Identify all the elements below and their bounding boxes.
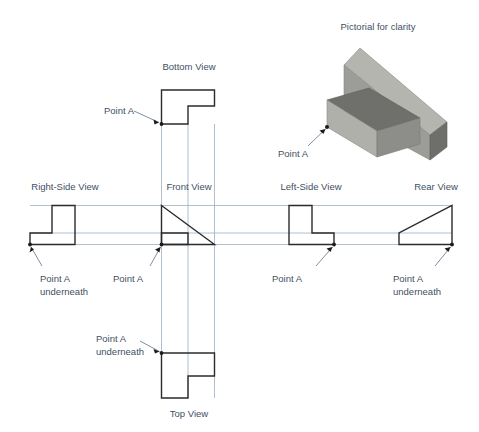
callout-pictorial-point-a: Point A: [278, 148, 309, 159]
view-front-point-a-marker: [160, 243, 164, 247]
view-left-side-point-a-marker: [332, 243, 336, 247]
callout-rear-point-a-line2: underneath: [393, 286, 441, 297]
callout-bottom-view-point-a: Point A: [104, 105, 135, 116]
pictorial-caption: Pictorial for clarity: [341, 21, 416, 32]
projection-lines: [30, 124, 452, 398]
view-top: Point A underneath Top View: [96, 333, 215, 419]
view-bottom: Bottom View Point A: [104, 61, 216, 126]
callout-top-point-a-line2: underneath: [96, 346, 144, 357]
callout-top-point-a-line1: Point A: [96, 333, 127, 344]
view-right-side-point-a-marker: [28, 243, 32, 247]
view-bottom-point-a-marker: [160, 122, 164, 126]
callout-rear-point-a-line1: Point A: [393, 273, 424, 284]
view-bottom-outline: [162, 90, 215, 124]
callout-left-side-point-a: Point A: [272, 273, 303, 284]
callout-right-side-point-a-line2: underneath: [40, 286, 88, 297]
pictorial-point-a-marker: [325, 125, 329, 129]
view-rear: Rear View Point A underneath: [393, 181, 458, 297]
view-top-label: Top View: [170, 408, 209, 419]
view-left-side-outline: [289, 206, 334, 245]
view-left-side-arrowhead: [327, 247, 333, 252]
view-rear-label: Rear View: [414, 181, 458, 192]
callout-front-view-point-a: Point A: [113, 273, 144, 284]
orthographic-projection-figure: Bottom View Point A Pictorial for clarit…: [0, 0, 479, 432]
view-left-side-label: Left-Side View: [280, 181, 341, 192]
callout-right-side-point-a-line1: Point A: [40, 273, 71, 284]
view-right-side-label: Right-Side View: [31, 181, 99, 192]
view-front: Front View Point A: [113, 181, 215, 284]
pictorial-solid: Pictorial for clarity Point A: [278, 21, 447, 160]
view-top-point-a-marker: [160, 351, 164, 355]
view-rear-point-a-marker: [450, 243, 454, 247]
view-right-side-outline: [30, 206, 75, 245]
view-left-side: Left-Side View Point A: [272, 181, 342, 284]
view-front-label: Front View: [166, 181, 211, 192]
technical-drawing-canvas: Bottom View Point A Pictorial for clarit…: [0, 0, 479, 432]
view-right-side: Right-Side View Point A underneath: [28, 181, 99, 297]
view-rear-triangle: [399, 206, 452, 245]
pictorial-arrowhead: [320, 129, 326, 134]
view-bottom-label: Bottom View: [162, 61, 215, 72]
view-front-base-rect: [162, 233, 189, 245]
